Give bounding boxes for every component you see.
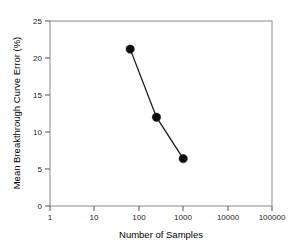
- x-tick-label-1000: 1000: [174, 213, 192, 222]
- y-axis-title: Mean Breakthrough Curve Error (%): [11, 37, 22, 190]
- x-axis-ticks: [50, 206, 272, 211]
- chart-container: 0 5 10 15 20 25 1 10 100 1000 10000 1000…: [0, 0, 307, 247]
- y-tick-label-0: 0: [38, 202, 43, 211]
- x-tick-label-10000: 10000: [217, 213, 240, 222]
- y-tick-label-25: 25: [33, 17, 42, 26]
- y-axis-tick-labels: 0 5 10 15 20 25: [33, 17, 42, 211]
- series-line: [130, 49, 183, 159]
- x-tick-label-10: 10: [90, 213, 99, 222]
- x-tick-label-100: 100: [132, 213, 146, 222]
- y-axis-ticks: [45, 21, 50, 206]
- line-chart: 0 5 10 15 20 25 1 10 100 1000 10000 1000…: [0, 0, 307, 247]
- data-point: [152, 113, 160, 121]
- y-tick-label-10: 10: [33, 128, 42, 137]
- y-tick-label-5: 5: [38, 165, 43, 174]
- x-tick-label-100000: 100000: [259, 213, 286, 222]
- plot-frame: [50, 21, 272, 206]
- data-point: [126, 45, 134, 53]
- x-axis-title: Number of Samples: [119, 229, 203, 240]
- data-point: [179, 154, 187, 162]
- y-tick-label-15: 15: [33, 91, 42, 100]
- y-tick-label-20: 20: [33, 54, 42, 63]
- data-series: [126, 45, 187, 163]
- x-axis-tick-labels: 1 10 100 1000 10000 100000: [48, 213, 286, 222]
- x-tick-label-1: 1: [48, 213, 53, 222]
